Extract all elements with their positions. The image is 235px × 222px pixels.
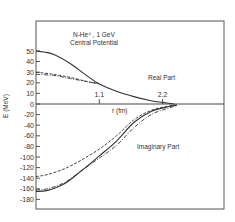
chart-subtitle: Central Potential: [70, 39, 119, 46]
y-tick-label: -80: [24, 143, 34, 150]
y-tick-label: -40: [24, 122, 34, 129]
y-tick-label: -120: [20, 164, 34, 171]
x-tick-label: 1.1: [94, 91, 104, 98]
curves: [36, 51, 177, 191]
y-tick-label: 20: [26, 79, 34, 86]
plot-frame: [36, 21, 224, 209]
annotation-imaginary-part: Imaginary Part: [137, 143, 179, 151]
y-tick-label: 0: [30, 101, 34, 108]
y-axis-ticks: 50403020100-20-40-60-80-100-120-140-160-…: [20, 48, 40, 203]
y-tick-label: -20: [24, 111, 34, 118]
annotation-real-part: Real Part: [148, 74, 175, 81]
y-tick-label: 10: [26, 90, 34, 97]
curve-imaginary-part-dashed: [36, 105, 177, 177]
y-tick-label: 30: [26, 69, 34, 76]
y-axis-label: E (MeV): [2, 94, 10, 118]
chart-title: N-He⁴ , 1 GeV: [73, 31, 115, 38]
chart: 50403020100-20-40-60-80-100-120-140-160-…: [0, 0, 235, 222]
y-tick-label: -60: [24, 132, 34, 139]
y-tick-label: 50: [26, 48, 34, 55]
x-tick-label: 2.2: [158, 91, 168, 98]
curve-real-part-dash-dot: [36, 74, 99, 84]
y-tick-label: -180: [20, 196, 34, 203]
x-axis-label: r (fm): [112, 107, 128, 115]
y-tick-label: -100: [20, 154, 34, 161]
y-tick-label: 40: [26, 58, 34, 65]
y-tick-label: -140: [20, 175, 34, 182]
y-tick-label: -160: [20, 185, 34, 192]
